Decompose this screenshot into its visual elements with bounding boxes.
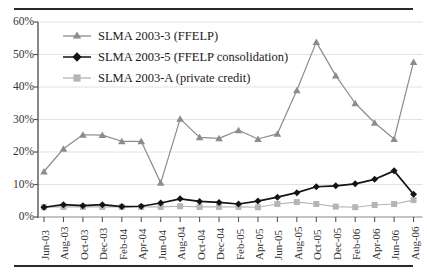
legend-label: SLMA 2003-A (private credit) — [98, 71, 250, 86]
x-axis-tick-label: Jun-04 — [157, 230, 168, 260]
data-point-marker — [332, 72, 340, 79]
x-axis-tick-label: Dec-03 — [98, 228, 109, 260]
x-axis-tick-label: Feb-05 — [235, 229, 246, 260]
x-axis-tick-label: Apr-06 — [371, 228, 382, 260]
data-point-marker — [351, 100, 359, 107]
data-point-marker — [332, 182, 339, 189]
data-point-marker — [293, 189, 300, 196]
x-axis-tick-label: Aug-06 — [410, 226, 421, 260]
legend-label: SLMA 2003-5 (FFELP consolidation) — [98, 50, 288, 65]
data-point-marker — [410, 58, 418, 65]
x-axis-tick-label: Jun-05 — [273, 230, 284, 260]
y-axis-tick-label: 10% — [0, 179, 34, 191]
y-axis-tick-label: 30% — [0, 114, 34, 126]
x-axis-tick-label: Feb-04 — [118, 229, 129, 260]
chart-figure: 0%10%20%30%40%50%60% Jun-03Aug-03Oct-03D… — [0, 0, 427, 276]
legend-item-slma-2003-5: SLMA 2003-5 (FFELP consolidation) — [62, 48, 288, 66]
x-axis-tick-label: Apr-05 — [254, 228, 265, 260]
data-point-marker — [157, 179, 165, 186]
data-point-marker — [391, 201, 397, 207]
data-point-marker — [411, 197, 417, 203]
legend-label: SLMA 2003-3 (FFELP) — [98, 29, 218, 44]
data-point-marker — [333, 204, 339, 210]
data-point-marker — [176, 115, 184, 122]
data-point-marker — [177, 203, 183, 209]
chart-legend: SLMA 2003-3 (FFELP) SLMA 2003-5 (FFELP c… — [62, 27, 288, 90]
data-point-marker — [255, 204, 261, 210]
x-axis-tick-label: Aug-05 — [293, 226, 304, 260]
data-point-marker — [372, 202, 378, 208]
y-axis-tick-label: 50% — [0, 49, 34, 61]
data-point-marker — [274, 130, 282, 137]
diamond-marker-icon — [62, 50, 92, 64]
data-point-marker — [294, 199, 300, 205]
x-axis-tick-label: Aug-03 — [59, 226, 70, 260]
x-axis-tick-label: Dec-04 — [215, 228, 226, 260]
square-marker-icon — [62, 71, 92, 85]
series-2 — [41, 167, 418, 210]
x-axis-tick-label: Feb-06 — [351, 229, 362, 260]
x-axis-tick-label: Oct-05 — [312, 229, 323, 260]
data-point-marker — [371, 176, 378, 183]
y-axis-tick-label: 20% — [0, 146, 34, 158]
data-point-marker — [177, 195, 184, 202]
data-point-marker — [352, 204, 358, 210]
data-point-marker — [293, 87, 301, 94]
data-point-marker — [352, 180, 359, 187]
y-axis-tick-label: 40% — [0, 81, 34, 93]
x-axis-tick-label: Apr-04 — [137, 228, 148, 260]
y-axis-tick-label: 60% — [0, 16, 34, 28]
y-axis-tick-label: 0% — [0, 211, 34, 223]
x-axis-tick-label: Oct-04 — [196, 229, 207, 260]
data-point-marker — [235, 127, 243, 134]
data-point-marker — [274, 194, 281, 201]
data-point-marker — [254, 198, 261, 205]
data-point-marker — [313, 201, 319, 207]
x-axis-tick-label: Oct-03 — [79, 229, 90, 260]
legend-item-slma-2003-3: SLMA 2003-3 (FFELP) — [62, 27, 288, 45]
x-axis-tick-label: Aug-04 — [176, 226, 187, 260]
x-axis-tick-label: Jun-06 — [390, 230, 401, 260]
x-axis-tick-label: Dec-05 — [332, 228, 343, 260]
data-point-marker — [313, 39, 321, 46]
data-point-marker — [196, 198, 203, 205]
data-point-marker — [274, 201, 280, 207]
series-line — [44, 171, 414, 207]
triangle-marker-icon — [62, 29, 92, 43]
x-axis-tick-label: Jun-03 — [40, 230, 51, 260]
legend-item-slma-2003-a: SLMA 2003-A (private credit) — [62, 69, 288, 87]
